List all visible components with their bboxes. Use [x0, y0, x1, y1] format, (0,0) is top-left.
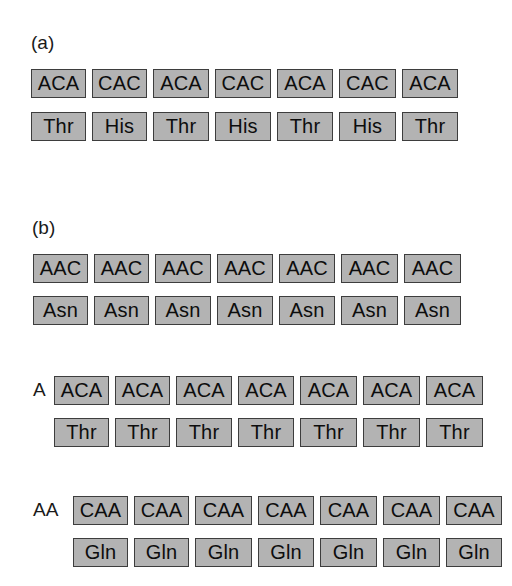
amino-acid-box: Gln [258, 538, 314, 567]
amino-acid-box: His [339, 112, 396, 141]
codon-box: CAA [195, 496, 252, 525]
amino-acid-box: Asn [33, 296, 88, 325]
codon-box: AAC [279, 254, 335, 283]
frame-2-amino-acid-row: Thr Thr Thr Thr Thr Thr Thr [54, 418, 483, 447]
codon-box: AAC [33, 254, 88, 283]
amino-acid-box: His [92, 112, 147, 141]
codon-box: ACA [300, 376, 357, 405]
codon-box: ACA [31, 69, 86, 98]
codon-box: ACA [238, 376, 294, 405]
codon-box: CAA [383, 496, 440, 525]
codon-box: AAC [94, 254, 149, 283]
codon-box: AAC [341, 254, 398, 283]
frame-3-amino-acid-row: Gln Gln Gln Gln Gln Gln Gln [73, 538, 502, 567]
codon-box: CAA [446, 496, 502, 525]
amino-acid-box: Gln [195, 538, 252, 567]
frame-2-prefix: A [33, 379, 46, 401]
amino-acid-box: Thr [238, 418, 294, 447]
amino-acid-box: Thr [300, 418, 357, 447]
amino-acid-box: Gln [134, 538, 189, 567]
amino-acid-box: Gln [383, 538, 440, 567]
codon-box: ACA [54, 376, 109, 405]
amino-acid-box: Asn [155, 296, 211, 325]
amino-acid-box: Thr [176, 418, 232, 447]
codon-box: ACA [176, 376, 232, 405]
amino-acid-box: Asn [217, 296, 273, 325]
codon-box: CAA [320, 496, 377, 525]
codon-box: ACA [277, 69, 333, 98]
amino-acid-box: Thr [54, 418, 109, 447]
codon-box: ACA [426, 376, 483, 405]
amino-acid-box: Gln [320, 538, 377, 567]
codon-box: CAA [73, 496, 128, 525]
amino-acid-box: Asn [341, 296, 398, 325]
codon-box: ACA [153, 69, 209, 98]
amino-acid-box: Asn [279, 296, 335, 325]
amino-acid-box: Asn [404, 296, 461, 325]
codon-box: AAC [155, 254, 211, 283]
codon-box: AAC [217, 254, 273, 283]
frame-3-prefix: AA [33, 499, 58, 521]
codon-box: AAC [404, 254, 461, 283]
amino-acid-box: Gln [73, 538, 128, 567]
part-a-amino-acid-row: Thr His Thr His Thr His Thr [31, 112, 458, 141]
amino-acid-box: Thr [115, 418, 170, 447]
amino-acid-box: Thr [363, 418, 420, 447]
part-a-label: (a) [31, 32, 54, 54]
amino-acid-box: Thr [402, 112, 458, 141]
frame-1-codon-row: AAC AAC AAC AAC AAC AAC AAC [33, 254, 461, 283]
codon-box: ACA [402, 69, 458, 98]
codon-box: ACA [363, 376, 420, 405]
part-a-codon-row: ACA CAC ACA CAC ACA CAC ACA [31, 69, 458, 98]
codon-box: CAC [215, 69, 271, 98]
codon-box: ACA [115, 376, 170, 405]
amino-acid-box: Thr [31, 112, 86, 141]
codon-box: CAC [339, 69, 396, 98]
amino-acid-box: Asn [94, 296, 149, 325]
amino-acid-box: His [215, 112, 271, 141]
frame-2-codon-row: ACA ACA ACA ACA ACA ACA ACA [54, 376, 483, 405]
codon-box: CAA [258, 496, 314, 525]
amino-acid-box: Thr [277, 112, 333, 141]
part-b-label: (b) [32, 217, 55, 239]
codon-box: CAA [134, 496, 189, 525]
amino-acid-box: Thr [153, 112, 209, 141]
codon-box: CAC [92, 69, 147, 98]
amino-acid-box: Gln [446, 538, 502, 567]
amino-acid-box: Thr [426, 418, 483, 447]
frame-3-codon-row: CAA CAA CAA CAA CAA CAA CAA [73, 496, 502, 525]
codon-translation-figure: (a) ACA CAC ACA CAC ACA CAC ACA Thr His … [0, 0, 512, 586]
frame-1-amino-acid-row: Asn Asn Asn Asn Asn Asn Asn [33, 296, 461, 325]
